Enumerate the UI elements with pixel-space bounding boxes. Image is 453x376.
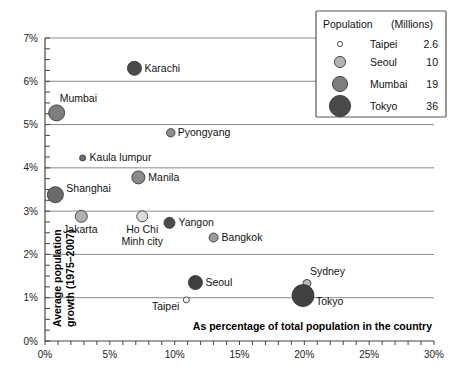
- legend-label-seoul: Seoul: [370, 56, 397, 68]
- bubble-kaula-lumpur[interactable]: [80, 155, 86, 161]
- legend-value-mumbai: 19: [426, 78, 438, 90]
- label-kaula-lumpur: Kaula lumpur: [90, 151, 152, 163]
- bubble-mumbai[interactable]: [49, 105, 65, 121]
- y-tick-label-5%: 5%: [24, 119, 39, 130]
- legend-bubble-mumbai: [332, 76, 347, 91]
- label-taipei: Taipei: [152, 300, 179, 312]
- y-tick-label-0%: 0%: [24, 336, 39, 347]
- bubble-tokyo[interactable]: [292, 285, 314, 307]
- legend-value-tokyo: 36: [426, 100, 438, 112]
- legend-bubble-tokyo: [329, 95, 350, 116]
- x-tick-label-25%: 25%: [359, 349, 379, 360]
- bubble-ho-chi-minh-city[interactable]: [137, 211, 148, 222]
- bubble-taipei[interactable]: [183, 297, 189, 303]
- legend: Population (Millions) Taipei2.6Seoul10Mu…: [316, 11, 446, 117]
- legend-value-seoul: 10: [426, 56, 438, 68]
- bubble-pyongyang[interactable]: [167, 129, 175, 137]
- x-axis-tick-labels: 0%5%10%15%20%25%30%: [38, 349, 444, 360]
- legend-value-taipei: 2.6: [423, 38, 438, 50]
- bubble-chart: 0%5%10%15%20%25%30% 0%1%2%3%4%5%6%7% Kar…: [0, 0, 453, 376]
- x-tick-label-20%: 20%: [294, 349, 314, 360]
- bubble-yangon[interactable]: [164, 217, 175, 228]
- y-axis-title-line2: growth (1975–2007): [64, 230, 76, 327]
- chart-canvas: 0%5%10%15%20%25%30% 0%1%2%3%4%5%6%7% Kar…: [0, 0, 453, 376]
- data-point-labels: KarachiMumbaiPyongyangKaula lumpurManila…: [60, 62, 346, 312]
- y-tick-label-7%: 7%: [24, 33, 39, 44]
- label-seoul: Seoul: [205, 276, 232, 288]
- y-tick-label-3%: 3%: [24, 206, 39, 217]
- y-axis-title-line1: Average population: [51, 229, 63, 327]
- y-tick-label-6%: 6%: [24, 76, 39, 87]
- y-axis-tick-labels: 0%1%2%3%4%5%6%7%: [24, 33, 39, 347]
- x-tick-label-5%: 5%: [103, 349, 118, 360]
- label-yangon: Yangon: [178, 216, 214, 228]
- bubble-jakarta[interactable]: [75, 210, 87, 222]
- x-tick-label-15%: 15%: [229, 349, 249, 360]
- y-tick-label-1%: 1%: [24, 292, 39, 303]
- label-bangkok: Bangkok: [222, 231, 264, 243]
- y-tick-label-2%: 2%: [24, 249, 39, 260]
- legend-label-tokyo: Tokyo: [370, 100, 398, 112]
- legend-label-taipei: Taipei: [370, 38, 397, 50]
- legend-bubble-seoul: [334, 56, 345, 67]
- legend-unit: (Millions): [391, 18, 433, 30]
- bubble-manila[interactable]: [132, 171, 145, 184]
- label-pyongyang: Pyongyang: [178, 126, 231, 138]
- label-mumbai: Mumbai: [60, 92, 97, 104]
- x-tick-label-10%: 10%: [165, 349, 185, 360]
- bubble-shanghai[interactable]: [47, 187, 63, 203]
- label-shanghai: Shanghai: [66, 182, 110, 194]
- label-sydney: Sydney: [310, 265, 346, 277]
- x-tick-label-30%: 30%: [424, 349, 444, 360]
- legend-bubble-taipei: [337, 41, 342, 46]
- label-ho-chi-minh-city-line1: Ho Chi: [126, 223, 158, 235]
- label-ho-chi-minh-city-line2: Minh city: [122, 235, 164, 247]
- label-manila: Manila: [148, 171, 179, 183]
- x-tick-label-0%: 0%: [38, 349, 53, 360]
- legend-title: Population: [323, 18, 373, 30]
- bubble-bangkok[interactable]: [209, 233, 218, 242]
- label-karachi: Karachi: [144, 62, 180, 74]
- bubble-karachi[interactable]: [127, 61, 141, 75]
- legend-label-mumbai: Mumbai: [370, 78, 407, 90]
- y-tick-label-4%: 4%: [24, 162, 39, 173]
- bubble-seoul[interactable]: [188, 276, 202, 290]
- label-tokyo: Tokyo: [316, 295, 344, 307]
- x-axis-title: As percentage of total population in the…: [193, 320, 432, 332]
